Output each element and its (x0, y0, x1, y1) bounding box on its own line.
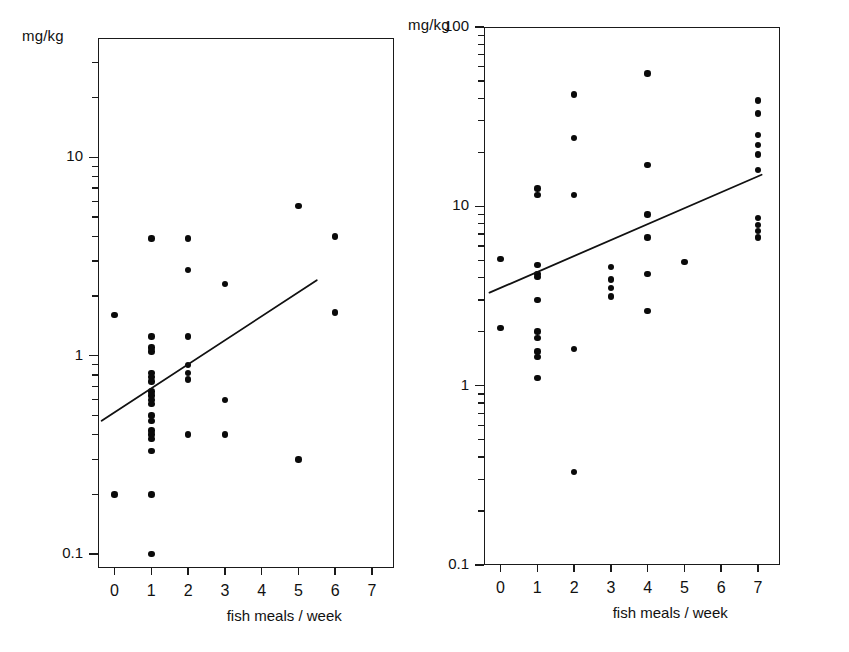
y-tick-minor (92, 216, 98, 217)
y-tick-minor (478, 233, 484, 234)
x-tick-label: 1 (136, 582, 166, 600)
x-tick (151, 568, 152, 575)
x-tick-label: 2 (559, 579, 589, 597)
data-point (332, 233, 338, 239)
data-point (148, 348, 154, 354)
y-tick-major (475, 564, 484, 565)
data-point (608, 264, 614, 270)
y-tick-minor (92, 386, 98, 387)
y-tick-minor (478, 80, 484, 81)
data-point (534, 335, 540, 341)
data-point (148, 235, 154, 241)
y-tick-label: 1 (35, 346, 83, 363)
data-point (534, 354, 540, 360)
x-tick-label: 4 (633, 579, 663, 597)
y-tick-minor (92, 415, 98, 416)
data-point (534, 375, 540, 381)
y-tick-minor (478, 44, 484, 45)
data-point (148, 448, 154, 454)
y-tick-label: 0.1 (35, 544, 83, 561)
plot-frame-right (484, 27, 780, 565)
data-point (608, 293, 614, 299)
y-tick-minor (478, 393, 484, 394)
x-tick-label: 6 (320, 582, 350, 600)
y-tick-label: 0.1 (421, 555, 469, 572)
y-tick-minor (478, 120, 484, 121)
x-tick-label: 3 (210, 582, 240, 600)
y-tick-minor (92, 166, 98, 167)
data-point (644, 234, 650, 240)
y-tick-minor (478, 456, 484, 457)
data-point (111, 491, 117, 497)
x-tick-label: 6 (706, 579, 736, 597)
data-point (534, 297, 540, 303)
data-point (148, 418, 154, 424)
data-point (755, 234, 761, 240)
data-point (185, 235, 191, 241)
data-point (534, 274, 540, 280)
y-tick-minor (92, 295, 98, 296)
data-point (534, 328, 540, 334)
y-tick-minor (92, 62, 98, 63)
x-tick (371, 568, 372, 575)
data-point (148, 333, 154, 339)
y-tick-minor (478, 331, 484, 332)
y-tick-label: 100 (421, 17, 469, 34)
y-tick-minor (92, 97, 98, 98)
data-point (644, 162, 650, 168)
data-point (148, 401, 154, 407)
figure-root: mg/kg 0.1110 01234567 fish meals / week … (0, 0, 849, 652)
y-tick-minor (478, 439, 484, 440)
data-point (608, 276, 614, 282)
x-tick-label: 7 (357, 582, 387, 600)
y-tick-minor (478, 479, 484, 480)
y-tick-minor (478, 413, 484, 414)
x-tick-label: 1 (522, 579, 552, 597)
y-tick-minor (92, 187, 98, 188)
y-tick-minor (92, 374, 98, 375)
y-tick-minor (92, 260, 98, 261)
y-tick-minor (478, 277, 484, 278)
x-tick (610, 565, 611, 572)
data-point (644, 211, 650, 217)
y-tick-minor (478, 152, 484, 153)
y-tick-minor (92, 364, 98, 365)
y-tick-minor (478, 35, 484, 36)
y-tick-major (475, 26, 484, 27)
data-point (755, 110, 761, 116)
chart-panel-left: mg/kg 0.1110 01234567 fish meals / week (0, 0, 424, 652)
data-point (755, 151, 761, 157)
y-tick-minor (92, 236, 98, 237)
y-tick-minor (478, 402, 484, 403)
data-point (755, 97, 761, 103)
data-point (185, 431, 191, 437)
x-tick-label: 0 (486, 579, 516, 597)
y-tick-label: 10 (421, 196, 469, 213)
y-tick-label: 1 (421, 376, 469, 393)
x-tick (720, 565, 721, 572)
x-tick (261, 568, 262, 575)
data-point (755, 167, 761, 173)
data-point (185, 333, 191, 339)
x-tick (537, 565, 538, 572)
y-tick-major (475, 206, 484, 207)
y-tick-minor (92, 399, 98, 400)
data-point (148, 551, 154, 557)
plot-frame-left (98, 38, 394, 568)
y-axis-unit-label-left: mg/kg (22, 27, 64, 44)
data-point (148, 436, 154, 442)
x-tick (573, 565, 574, 572)
x-tick (187, 568, 188, 575)
y-tick-major (475, 385, 484, 386)
y-tick-minor (478, 54, 484, 55)
y-tick-major (89, 355, 98, 356)
x-axis-title-right: fish meals / week (613, 604, 728, 621)
data-point (497, 256, 503, 262)
data-point (681, 259, 687, 265)
y-tick-minor (92, 459, 98, 460)
chart-panel-right: mg/kg 0.1110100 01234567 fish meals / we… (425, 0, 849, 652)
data-point (644, 70, 650, 76)
y-tick-minor (478, 299, 484, 300)
y-tick-minor (478, 223, 484, 224)
x-tick-label: 2 (173, 582, 203, 600)
